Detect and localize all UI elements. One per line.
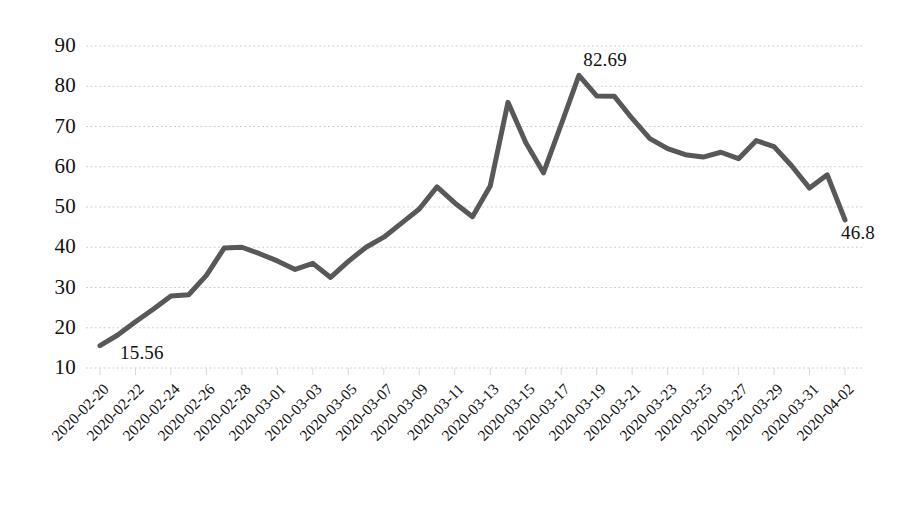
y-axis-tick-label: 50 [36,196,76,217]
y-axis-tick-label: 90 [36,35,76,56]
y-axis-tick-label: 10 [36,357,76,378]
y-axis-tick-label: 70 [36,116,76,137]
data-point-label: 15.56 [120,342,164,364]
y-axis-tick-label: 40 [36,236,76,257]
y-axis-tick-label: 80 [36,75,76,96]
data-point-label: 46.8 [841,222,875,244]
data-series-line [100,75,845,345]
line-chart-figure: 102030405060708090 2020-02-202020-02-222… [0,0,907,505]
x-axis-tick-marks [100,368,845,375]
y-axis-tick-label: 60 [36,156,76,177]
gridlines [86,46,862,368]
series-line-path [100,75,845,345]
y-axis-tick-label: 20 [36,317,76,338]
y-axis-tick-label: 30 [36,277,76,298]
data-point-label: 82.69 [583,49,627,71]
